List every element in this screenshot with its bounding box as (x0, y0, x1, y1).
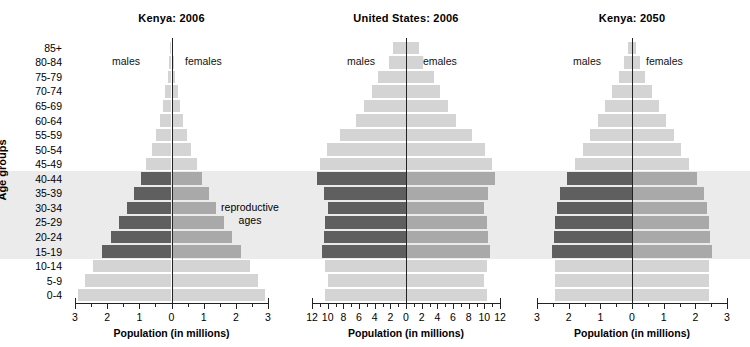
bar-male-55-59 (590, 129, 632, 142)
x-tick-minor (616, 303, 617, 307)
age-group-label-80-84: 80-84 (35, 56, 62, 68)
x-tick-major (664, 303, 665, 309)
age-group-label-70-74: 70-74 (35, 85, 62, 97)
bar-male-35-39 (560, 187, 632, 200)
x-tick-major (600, 303, 601, 309)
x-tick-major (537, 303, 538, 309)
x-tick-minor (585, 303, 586, 307)
bar-female-80-84 (632, 56, 640, 69)
x-tick-label: 1 (661, 311, 667, 323)
age-group-label-25-29: 25-29 (35, 216, 62, 228)
age-group-label-0-4: 0-4 (47, 289, 62, 301)
x-tick-major (632, 303, 633, 309)
age-group-label-10-14: 10-14 (35, 260, 62, 272)
bar-male-60-64 (598, 114, 632, 127)
population-pyramid-figure: Age groups 85+80-8475-7970-7465-6960-645… (0, 0, 750, 347)
bar-male-5-9 (555, 274, 632, 287)
pyramid-panel-3: Kenya: 2050malesfemales3210123Population… (0, 0, 750, 347)
reproductive-ages-annotation-line2: ages (221, 214, 279, 227)
center-axis-line (632, 38, 633, 303)
x-tick-label: 1 (597, 311, 603, 323)
x-tick-major (569, 303, 570, 309)
age-group-label-85plus: 85+ (44, 42, 62, 54)
bar-female-30-34 (632, 202, 707, 215)
reproductive-ages-annotation-line1: reproductive (221, 201, 279, 214)
females-legend-label: females (646, 55, 683, 67)
bar-female-40-44 (632, 172, 697, 185)
bar-female-70-74 (632, 85, 652, 98)
bar-male-25-29 (555, 216, 632, 229)
bar-female-35-39 (632, 187, 704, 200)
bar-male-75-79 (619, 71, 632, 84)
x-axis-title: Population (in millions) (574, 327, 690, 339)
bar-male-10-14 (555, 260, 632, 273)
bar-male-40-44 (567, 172, 632, 185)
bar-female-75-79 (632, 71, 645, 84)
bar-female-20-24 (632, 231, 710, 244)
bar-female-5-9 (632, 274, 709, 287)
reproductive-ages-annotation: reproductive ages (221, 201, 279, 227)
bar-male-65-69 (605, 100, 632, 113)
age-group-label-5-9: 5-9 (47, 275, 62, 287)
bar-female-45-49 (632, 158, 689, 171)
age-group-label-75-79: 75-79 (35, 71, 62, 83)
x-tick-label: 2 (692, 311, 698, 323)
x-tick-major (695, 303, 696, 309)
age-group-label-20-24: 20-24 (35, 231, 62, 243)
x-tick-label: 2 (566, 311, 572, 323)
age-group-label-40-44: 40-44 (35, 173, 62, 185)
bar-male-50-54 (583, 143, 632, 156)
age-group-label-15-19: 15-19 (35, 246, 62, 258)
bar-female-10-14 (632, 260, 709, 273)
bar-male-30-34 (557, 202, 632, 215)
age-groups-axis-title: Age groups (0, 139, 8, 200)
x-tick-minor (680, 303, 681, 307)
bar-male-0-4 (555, 289, 632, 302)
age-group-label-30-34: 30-34 (35, 202, 62, 214)
bar-female-0-4 (632, 289, 709, 302)
bar-female-60-64 (632, 114, 666, 127)
males-legend-label: males (573, 55, 601, 67)
bar-female-15-19 (632, 245, 712, 258)
bar-male-20-24 (554, 231, 632, 244)
bar-male-80-84 (624, 56, 632, 69)
panel-title: Kenya: 2050 (432, 12, 750, 24)
x-tick-minor (711, 303, 712, 307)
bar-male-15-19 (552, 245, 632, 258)
bar-male-45-49 (575, 158, 632, 171)
age-group-axis: Age groups 85+80-8475-7970-7465-6960-645… (0, 0, 68, 347)
x-tick-minor (553, 303, 554, 307)
bar-female-25-29 (632, 216, 709, 229)
age-group-label-55-59: 55-59 (35, 129, 62, 141)
x-tick-label: 3 (534, 311, 540, 323)
bar-female-55-59 (632, 129, 674, 142)
x-tick-label: 3 (724, 311, 730, 323)
x-tick-major (727, 303, 728, 309)
age-group-label-65-69: 65-69 (35, 100, 62, 112)
bar-female-50-54 (632, 143, 681, 156)
age-group-label-50-54: 50-54 (35, 144, 62, 156)
age-group-label-45-49: 45-49 (35, 158, 62, 170)
age-group-label-35-39: 35-39 (35, 187, 62, 199)
x-tick-label: 0 (629, 311, 635, 323)
age-group-label-60-64: 60-64 (35, 115, 62, 127)
x-tick-minor (648, 303, 649, 307)
bar-male-70-74 (612, 85, 632, 98)
bar-female-65-69 (632, 100, 659, 113)
